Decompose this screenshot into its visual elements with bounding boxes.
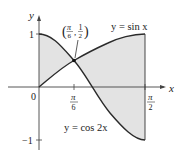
point-comma: ,: [74, 27, 76, 37]
origin-label: 0: [31, 91, 36, 102]
y-axis-arrow-icon: [37, 15, 41, 21]
chart-svg: y x 0 1 −1 π 6 π 2 ( π 6 , 1 2 ) y = sin…: [0, 0, 179, 155]
x-tick-label-pi-6: π 6: [70, 92, 78, 112]
y-tick-label-minus-one: −1: [22, 135, 33, 146]
pi-6-denominator: 6: [72, 103, 76, 112]
x-tick-label-pi-2: π 2: [147, 92, 155, 112]
x-axis-label: x: [168, 82, 174, 94]
annotation-pointer: [75, 40, 78, 58]
point-annotation: ( π 6 , 1 2 ): [62, 23, 89, 40]
x-axis-arrow-icon: [160, 85, 166, 89]
intersection-point: [72, 59, 76, 63]
pi-6-numerator: π: [71, 92, 76, 102]
point-one: 1: [79, 23, 83, 32]
pi-2-denominator: 2: [149, 103, 153, 112]
paren-close: ): [84, 24, 89, 40]
point-six: 6: [68, 32, 72, 40]
cos-curve-label: y = cos 2x: [64, 122, 108, 133]
y-tick-label-one: 1: [29, 29, 34, 40]
sin-curve-label: y = sin x: [111, 21, 148, 32]
point-two: 2: [79, 32, 83, 40]
point-pi: π: [67, 23, 72, 32]
y-axis-label: y: [28, 9, 34, 21]
pi-2-numerator: π: [148, 92, 153, 102]
